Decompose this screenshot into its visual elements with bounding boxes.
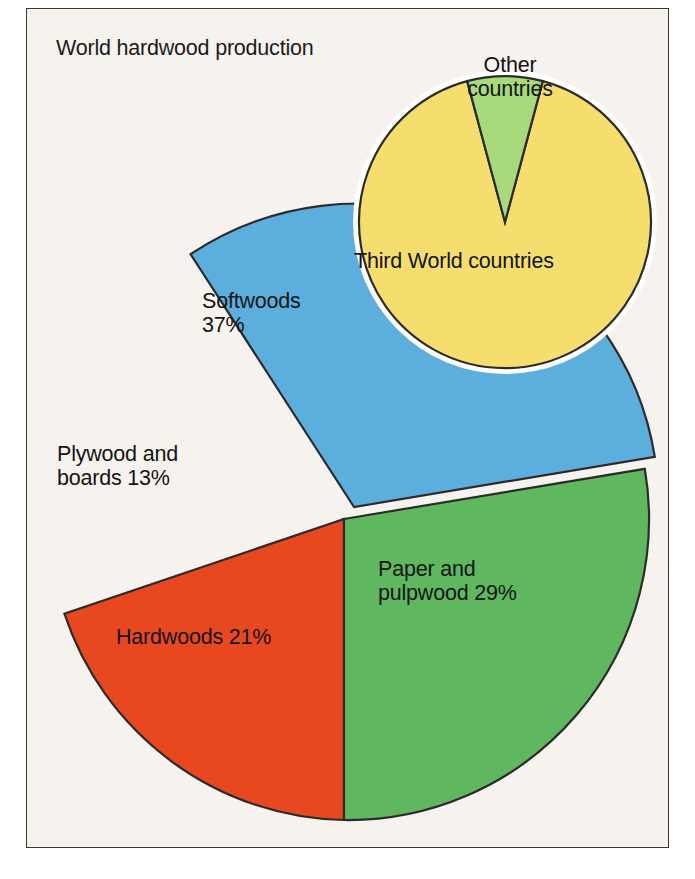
slice-label-plywood: Plywood and boards 13% [57,442,178,490]
pie-slice-hardwoods[interactable] [64,519,344,820]
slice-label-third-world: Third World countries [354,249,554,273]
slice-label-hardwoods: Hardwoods 21% [116,625,271,649]
figure-canvas: World hardwood production Softwoods 37% … [0,0,695,879]
pie-slice-paper[interactable] [344,469,649,820]
slice-label-other-countries: Other countries [450,53,570,101]
pie-charts-svg [0,0,695,879]
slice-label-softwoods: Softwoods 37% [202,289,301,337]
slice-label-paper: Paper and pulpwood 29% [378,557,517,605]
inset-pie-chart [353,70,657,374]
